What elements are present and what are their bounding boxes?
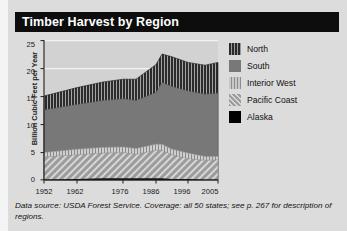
legend-label-interior-west: Interior West — [247, 78, 296, 88]
chart-legend: North South Interior West Pacific Coast … — [229, 40, 339, 125]
chart-area: Billion Cubic Feet per Year 25 20 15 10 … — [15, 36, 339, 196]
chart-title-bar: Timber Harvest by Region — [15, 12, 339, 32]
legend-item-interior-west[interactable]: Interior West — [229, 74, 339, 91]
x-tick-1976: 1976 — [105, 187, 135, 196]
x-tick-1996: 1996 — [167, 187, 197, 196]
legend-label-north: North — [247, 44, 268, 54]
legend-swatch-interior-west-icon — [229, 77, 241, 89]
legend-swatch-north-icon — [229, 43, 241, 55]
page-left-margin — [0, 0, 8, 234]
page-title: Timber Harvest by Region — [15, 15, 179, 29]
x-tick-2005: 2005 — [195, 187, 225, 196]
legend-item-alaska[interactable]: Alaska — [229, 108, 339, 125]
legend-swatch-south-icon — [229, 60, 241, 72]
page-bottom-margin — [0, 231, 347, 234]
legend-item-south[interactable]: South — [229, 57, 339, 74]
x-tick-1986: 1986 — [136, 187, 166, 196]
x-tick-1952: 1952 — [29, 187, 59, 196]
legend-label-alaska: Alaska — [247, 112, 273, 122]
figure-container: Timber Harvest by Region Billion Cubic F… — [0, 0, 347, 234]
legend-swatch-pacific-coast-icon — [229, 94, 241, 106]
legend-item-north[interactable]: North — [229, 40, 339, 57]
legend-item-pacific-coast[interactable]: Pacific Coast — [229, 91, 339, 108]
chart-caption: Data source: USDA Forest Service. Covera… — [15, 200, 335, 222]
legend-label-pacific-coast: Pacific Coast — [247, 95, 297, 105]
legend-label-south: South — [247, 61, 269, 71]
x-tick-1962: 1962 — [60, 187, 90, 196]
legend-swatch-alaska-icon — [229, 111, 241, 123]
